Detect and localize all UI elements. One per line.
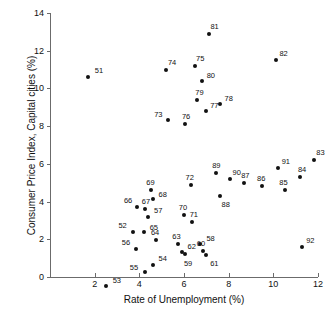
data-point-label: 60 (197, 238, 205, 247)
data-point (151, 263, 155, 267)
data-point-label: 56 (122, 237, 130, 246)
plot-area: 24681012 02468101214 5152535455565758596… (0, 0, 332, 315)
data-point-label: 57 (154, 205, 162, 214)
data-point (149, 188, 153, 192)
data-point-label: 88 (222, 199, 230, 208)
data-point-label: 52 (118, 220, 126, 229)
data-point-label: 82 (279, 49, 287, 58)
data-point (182, 213, 186, 217)
data-point (164, 68, 168, 72)
x-tick-label: 10 (268, 279, 278, 289)
x-tick-mark (273, 273, 274, 277)
y-tick-mark (47, 13, 51, 14)
data-point (204, 253, 208, 257)
data-point (104, 284, 108, 288)
y-axis-title: Consumer Price Index, Capital cities (%) (26, 21, 37, 271)
y-tick-mark (47, 202, 51, 203)
data-point (274, 58, 278, 62)
y-axis-line (50, 13, 51, 278)
x-tick-label: 2 (92, 279, 97, 289)
data-point-label: 84 (298, 165, 306, 174)
x-tick-label: 12 (313, 279, 323, 289)
data-point (207, 32, 211, 36)
data-point (200, 79, 204, 83)
data-point (218, 102, 222, 106)
data-point (166, 118, 170, 122)
data-point (180, 250, 184, 254)
y-tick-mark (47, 88, 51, 89)
data-point (283, 188, 287, 192)
x-tick-mark (139, 273, 140, 277)
data-point-label: 54 (159, 253, 167, 262)
data-point-label: 53 (113, 276, 121, 285)
data-point (146, 215, 150, 219)
data-point (242, 181, 246, 185)
y-tick-mark (47, 51, 51, 52)
data-point (193, 64, 197, 68)
data-point-label: 85 (279, 178, 287, 187)
data-point (143, 270, 147, 274)
y-tick-mark (47, 164, 51, 165)
data-point (143, 207, 147, 211)
data-point-label: 63 (172, 232, 180, 241)
data-point (228, 177, 232, 181)
data-point (218, 194, 222, 198)
data-point-label: 65 (150, 222, 158, 231)
y-tick-label: 0 (24, 272, 44, 282)
data-point-label: 67 (142, 197, 150, 206)
x-axis-line (50, 277, 318, 278)
data-point (151, 197, 155, 201)
data-point (300, 245, 304, 249)
y-tick-mark (47, 277, 51, 278)
x-tick-mark (184, 273, 185, 277)
x-tick-label: 4 (137, 279, 142, 289)
data-point-label: 90 (233, 167, 241, 176)
data-point (260, 184, 264, 188)
data-point (276, 166, 280, 170)
data-point-label: 76 (182, 112, 190, 121)
data-point (176, 242, 180, 246)
data-point-label: 86 (257, 174, 265, 183)
data-point (86, 75, 90, 79)
x-tick-mark (95, 273, 96, 277)
data-point (189, 183, 193, 187)
data-point-label: 62 (188, 241, 196, 250)
data-point (312, 158, 316, 162)
data-point (201, 249, 205, 253)
data-point-label: 69 (146, 178, 154, 187)
data-point (183, 122, 187, 126)
data-point (298, 175, 302, 179)
data-point-label: 91 (282, 156, 290, 165)
data-point (134, 247, 138, 251)
x-tick-mark (229, 273, 230, 277)
data-point-label: 61 (210, 259, 218, 268)
data-point-label: 51 (95, 66, 103, 75)
data-point-label: 71 (190, 210, 198, 219)
data-point-label: 74 (168, 57, 176, 66)
y-tick-label: 14 (24, 8, 44, 18)
scatter-plot-figure: 24681012 02468101214 5152535455565758596… (0, 0, 332, 315)
data-point-label: 89 (212, 161, 220, 170)
data-point-label: 92 (306, 235, 314, 244)
data-point-label: 70 (179, 202, 187, 211)
data-point-label: 68 (159, 189, 167, 198)
data-point (135, 205, 139, 209)
data-point (214, 171, 218, 175)
data-point-label: 58 (206, 234, 214, 243)
data-point (204, 109, 208, 113)
data-point-label: 55 (130, 263, 138, 272)
data-point-label: 78 (225, 93, 233, 102)
data-point-label: 73 (154, 110, 162, 119)
data-point-label: 66 (124, 196, 132, 205)
data-point-label: 72 (186, 172, 194, 181)
y-tick-mark (47, 239, 51, 240)
x-axis-title: Rate of Unemployment (%) (50, 294, 318, 305)
data-point (154, 238, 158, 242)
x-tick-label: 8 (226, 279, 231, 289)
data-point (195, 98, 199, 102)
data-point-label: 79 (195, 87, 203, 96)
x-tick-mark (318, 273, 319, 277)
data-point-label: 87 (241, 170, 249, 179)
data-point-label: 59 (184, 259, 192, 268)
data-point (190, 220, 194, 224)
